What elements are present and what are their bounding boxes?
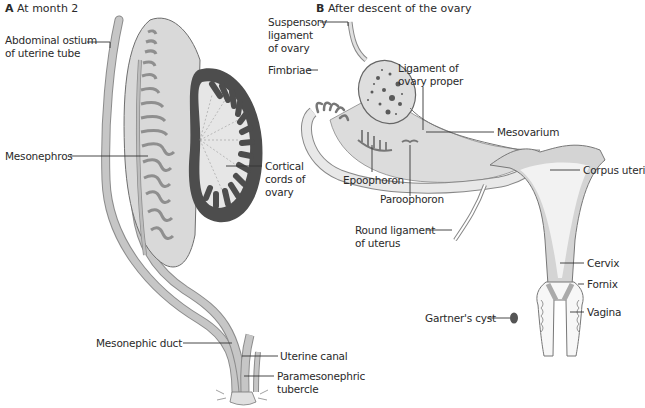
label-gartners-cyst: Gartner's cyst [425,312,496,325]
label-fimbriae: Fimbriae [268,64,312,77]
panel-a-title: A At month 2 [5,2,78,15]
label-corpus-uteri: Corpus uteri [583,164,645,177]
panel-b-title-text: After descent of the ovary [328,2,472,15]
panel-a-letter: A [5,2,14,15]
label-vagina: Vagina [587,306,621,319]
label-mesonephros: Mesonephros [5,150,73,163]
label-mesovarium: Mesovarium [497,126,559,139]
label-cervix: Cervix [587,257,619,270]
label-fornix: Fornix [587,278,618,291]
label-mesonephric-duct: Mesonephic duct [96,337,182,350]
label-paroophoron: Paroophoron [380,193,444,206]
diagram-canvas: A At month 2 B After descent of the ovar… [0,0,645,408]
label-paramesonephric-tubercle: Paramesonephric tubercle [277,370,365,396]
label-cortical-cords: Cortical cords of ovary [265,160,305,199]
panel-b-letter: B [316,2,324,15]
label-round-ligament: Round ligament of uterus [355,224,435,250]
label-uterine-canal: Uterine canal [280,350,348,363]
panel-b-title: B After descent of the ovary [316,2,472,15]
label-suspensory-ligament: Suspensory ligament of ovary [268,16,327,55]
label-epoophoron: Epoophoron [343,174,404,187]
label-abdominal-ostium: Abdominal ostium of uterine tube [5,34,97,60]
label-ligament-ovary-proper: Ligament of ovary proper [398,62,463,88]
panel-a-title-text: At month 2 [17,2,78,15]
